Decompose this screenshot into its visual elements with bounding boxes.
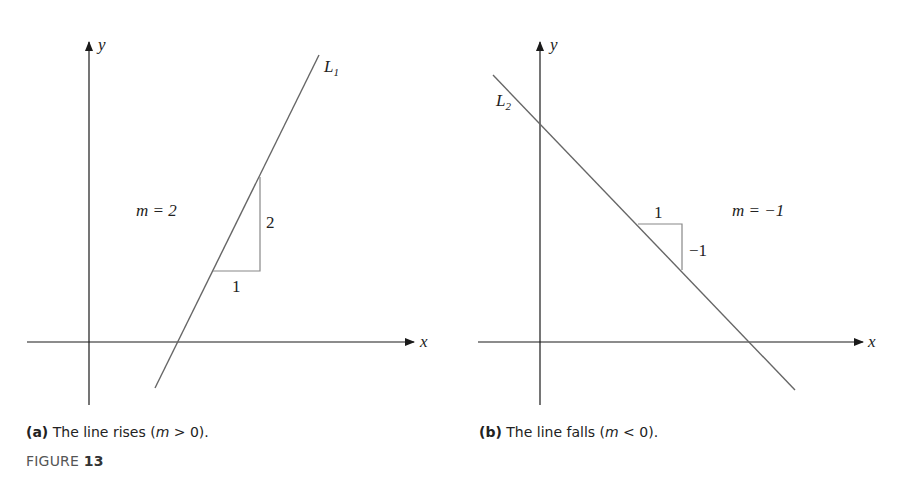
caption-b-var: m bbox=[605, 424, 619, 440]
caption-b-rel: < 0). bbox=[619, 424, 658, 440]
run-label-a: 1 bbox=[232, 277, 241, 296]
figure-number: 13 bbox=[84, 453, 104, 469]
figure-canvas: x y L1 2 1 m = 2 x y L2 1 −1 m = −1 bbox=[0, 0, 900, 487]
panel-b-y-label: y bbox=[548, 35, 558, 54]
caption-a-text: The line rises ( bbox=[48, 424, 155, 440]
caption-b-text: The line falls ( bbox=[502, 424, 605, 440]
rise-label-b: −1 bbox=[689, 241, 707, 260]
caption-a-var: m bbox=[156, 424, 170, 440]
panel-b-x-label: x bbox=[867, 332, 876, 351]
slope-label-b: m = −1 bbox=[732, 201, 784, 220]
panel-a-x-label: x bbox=[419, 332, 428, 351]
figure-label-word: FIGURE bbox=[26, 453, 79, 469]
caption-b-prefix: (b) bbox=[479, 424, 502, 440]
rise-label-a: 2 bbox=[266, 213, 275, 232]
line-L1 bbox=[155, 55, 319, 388]
panel-a-y-label: y bbox=[96, 35, 106, 54]
line-L2-label: L2 bbox=[495, 91, 511, 112]
caption-b: (b) The line falls (m < 0). bbox=[479, 424, 658, 440]
slope-label-a: m = 2 bbox=[136, 201, 177, 220]
line-L2 bbox=[493, 75, 795, 390]
line-L1-label: L1 bbox=[323, 57, 339, 78]
slope-triangle-b bbox=[638, 224, 682, 270]
caption-a-rel: > 0). bbox=[169, 424, 208, 440]
caption-a-prefix: (a) bbox=[26, 424, 48, 440]
panel-a-graph: x y L1 2 1 m = 2 bbox=[27, 35, 428, 405]
caption-a: (a) The line rises (m > 0). bbox=[26, 424, 209, 440]
run-label-b: 1 bbox=[654, 203, 663, 222]
figure-label: FIGURE 13 bbox=[26, 453, 104, 469]
panel-b-graph: x y L2 1 −1 m = −1 bbox=[478, 35, 876, 405]
